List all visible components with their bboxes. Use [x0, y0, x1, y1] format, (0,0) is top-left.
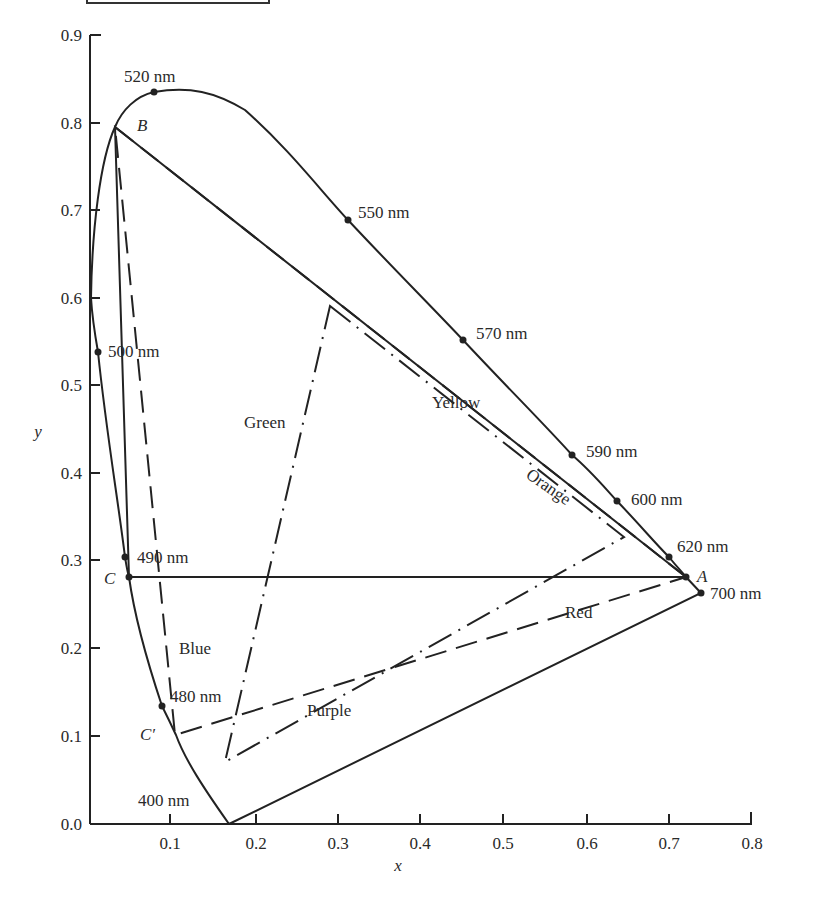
label-590nm: 590 nm: [586, 442, 637, 461]
marker-A: [683, 574, 690, 581]
marker-C: [126, 574, 133, 581]
x-tick-0.8: 0.8: [741, 834, 762, 853]
marker-570nm: [460, 337, 467, 344]
marker-620nm: [666, 554, 673, 561]
label-620nm: 620 nm: [677, 537, 728, 556]
dash-dot-gamut-triangle: [225, 306, 624, 762]
x-tick-0.6: 0.6: [576, 834, 597, 853]
x-tick-0.3: 0.3: [327, 834, 348, 853]
y-tick-labels: 0.9 0.8 0.7 0.6 0.5 0.4 0.3 0.2 0.1 0.0: [61, 26, 83, 834]
y-axis-label: y: [32, 422, 42, 441]
label-520nm: 520 nm: [124, 67, 175, 86]
point-Cprime-label: C′: [140, 725, 155, 744]
marker-490nm: [122, 554, 129, 561]
x-tick-0.2: 0.2: [245, 834, 266, 853]
region-red: Red: [565, 603, 593, 622]
x-axis-label: x: [393, 856, 402, 875]
label-550nm: 550 nm: [358, 203, 409, 222]
y-tick-0.3: 0.3: [61, 551, 82, 570]
region-green: Green: [244, 413, 286, 432]
x-tick-0.5: 0.5: [492, 834, 513, 853]
label-400nm: 400 nm: [138, 791, 189, 810]
region-purple: Purple: [307, 701, 351, 720]
marker-590nm: [569, 452, 576, 459]
marker-700nm: [698, 590, 705, 597]
label-570nm: 570 nm: [476, 324, 527, 343]
y-tick-0.4: 0.4: [61, 464, 83, 483]
chromaticity-diagram: 0.9 0.8 0.7 0.6 0.5 0.4 0.3 0.2 0.1 0.0 …: [0, 0, 816, 915]
region-orange: Orange: [523, 465, 575, 509]
y-tick-0.5: 0.5: [61, 376, 82, 395]
x-tick-labels: 0.1 0.2 0.3 0.4 0.5 0.6 0.7 0.8: [159, 834, 762, 853]
marker-600nm: [614, 498, 621, 505]
region-yellow: Yellow: [432, 393, 481, 412]
point-C-label: C: [104, 569, 116, 588]
label-490nm: 490 nm: [137, 548, 188, 567]
label-700nm: 700 nm: [710, 584, 761, 603]
y-tick-0.2: 0.2: [61, 639, 82, 658]
region-labels: Green Yellow Orange Red Purple Blue: [179, 393, 593, 720]
y-tick-0.0: 0.0: [61, 815, 82, 834]
marker-480nm: [159, 703, 166, 710]
region-blue: Blue: [179, 639, 211, 658]
y-tick-0.6: 0.6: [61, 289, 82, 308]
x-tick-0.4: 0.4: [409, 834, 431, 853]
x-tick-0.7: 0.7: [658, 834, 680, 853]
point-A-label: A: [696, 567, 708, 586]
y-tick-0.9: 0.9: [61, 26, 82, 45]
label-480nm: 480 nm: [170, 687, 221, 706]
y-tick-0.7: 0.7: [61, 201, 83, 220]
wavelength-labels: 520 nm 550 nm 570 nm 590 nm 600 nm 620 n…: [108, 67, 761, 810]
label-600nm: 600 nm: [631, 490, 682, 509]
point-B-label: B: [137, 116, 148, 135]
y-tick-0.1: 0.1: [61, 727, 82, 746]
wavelength-markers: [95, 89, 705, 710]
marker-520nm: [151, 89, 158, 96]
label-500nm: 500 nm: [108, 342, 159, 361]
marker-500nm: [95, 349, 102, 356]
marker-550nm: [345, 217, 352, 224]
y-tick-0.8: 0.8: [61, 114, 82, 133]
x-tick-0.1: 0.1: [159, 834, 180, 853]
